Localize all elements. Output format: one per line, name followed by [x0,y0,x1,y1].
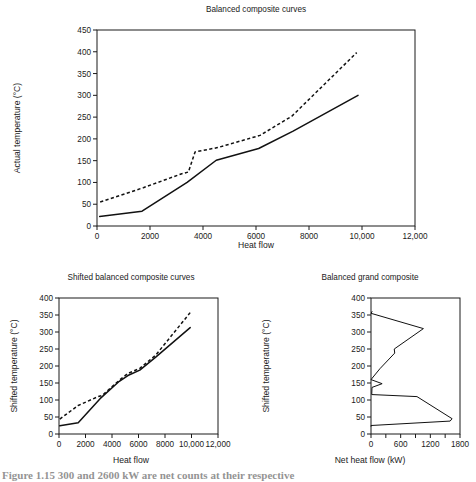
y-tick-label: 300 [351,328,365,337]
x-tick-label: 2000 [141,232,160,241]
y-tick-label: 100 [39,396,53,405]
y-tick-label: 300 [39,328,53,337]
y-tick-label: 250 [39,345,53,354]
chart-balanced-composite-curves: Balanced composite curves 02000400060008… [0,0,476,252]
y-tick-label: 200 [351,362,365,371]
y-tick-label: 250 [77,113,91,122]
y-tick-label: 150 [77,157,91,166]
chart-shifted-balanced-composite-curves: Shifted balanced composite curves 020004… [0,268,252,468]
y-tick-label: 50 [44,413,54,422]
y-tick-label: 400 [77,48,91,57]
plot-area-bottom-right: 060012001800050100150200250300350400 [351,294,469,449]
plot-area-top: 0200040006000800010,00012,00005010015020… [77,26,428,241]
y-tick-label: 450 [77,26,91,35]
x-tick-label: 1800 [451,440,470,449]
y-tick-label: 50 [82,200,92,209]
x-tick-label: 10,000 [349,232,374,241]
y-tick-label: 100 [77,178,91,187]
x-tick-label: 12,000 [402,232,427,241]
y-tick-label: 400 [351,294,365,303]
x-tick-label: 0 [95,232,100,241]
figure-caption: Figure 1.15 300 and 2600 kW are net coun… [0,470,476,482]
x-tick-label: 2000 [76,440,95,449]
x-tick-label: 10,000 [179,440,204,449]
y-tick-label: 150 [39,379,53,388]
chart-title-bottom-right: Balanced grand composite [322,273,419,282]
y-axis-title-top: Actual temperature (°C) [12,83,22,173]
x-tick-label: 0 [57,440,62,449]
x-axis-title-bottom-right: Net heat flow (kW) [335,455,406,465]
y-axis-title-bottom-right: Shifted temperature (°C) [261,319,271,412]
y-tick-label: 350 [351,311,365,320]
plot-frame [371,298,460,434]
series-dashed [60,313,190,419]
y-tick-label: 150 [351,379,365,388]
y-tick-label: 0 [86,222,91,231]
x-tick-label: 12,000 [205,440,230,449]
y-tick-label: 250 [351,345,365,354]
plot-area-bottom-left: 0200040006000800010,00012,00005010015020… [39,294,231,449]
x-tick-label: 8000 [156,440,175,449]
series-solid [100,95,358,216]
y-tick-label: 350 [39,311,53,320]
y-axis-title-bottom-left: Shifted temperature (°C) [9,319,19,412]
y-tick-label: 200 [39,362,53,371]
y-tick-label: 0 [360,430,365,439]
figure-caption-text: Figure 1.15 300 and 2600 kW are net coun… [2,470,474,481]
chart-balanced-grand-composite: Balanced grand composite 060012001800050… [252,268,476,468]
y-tick-label: 300 [77,91,91,100]
chart-title-bottom-left: Shifted balanced composite curves [68,273,195,282]
x-tick-label: 0 [369,440,374,449]
x-tick-label: 4000 [194,232,213,241]
plot-frame [59,298,218,434]
figure-container: Balanced composite curves 02000400060008… [0,0,476,482]
y-tick-label: 50 [356,413,366,422]
x-tick-label: 6000 [129,440,148,449]
y-tick-label: 350 [77,70,91,79]
y-tick-label: 400 [39,294,53,303]
x-tick-label: 1200 [421,440,440,449]
series-dashed [100,53,357,202]
x-tick-label: 600 [394,440,408,449]
x-axis-title-top: Heat flow [238,240,275,250]
x-tick-label: 8000 [300,232,319,241]
series-solid [371,312,452,427]
x-tick-label: 4000 [103,440,122,449]
y-tick-label: 100 [351,396,365,405]
plot-frame [97,30,415,226]
chart-title-top: Balanced composite curves [206,5,306,14]
y-tick-label: 0 [48,430,53,439]
y-tick-label: 200 [77,135,91,144]
x-axis-title-bottom-left: Heat flow [113,455,150,465]
